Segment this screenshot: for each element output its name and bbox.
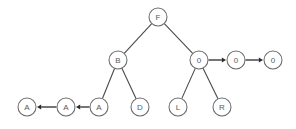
node-f[interactable]: F [149,8,167,26]
node-label: 0 [197,56,202,65]
node-label: L [176,103,181,112]
node-o-3[interactable]: 0 [264,51,282,69]
node-o-2[interactable]: 0 [227,51,245,69]
node-label: B [115,56,120,65]
edge-f-to-o1 [164,24,192,54]
node-label: A [63,103,69,112]
node-label: A [96,103,102,112]
arrow-o2-to-o3 [246,57,264,62]
node-l[interactable]: L [169,98,187,116]
arrow-head-icon [76,104,80,109]
node-a-2[interactable]: A [57,98,75,116]
edge-o1-to-r [203,68,218,98]
edge-b-to-d [122,68,136,98]
node-label: 0 [271,56,276,65]
edge-b-to-a3 [102,69,114,99]
node-o-1[interactable]: 0 [190,51,208,69]
arrow-head-icon [37,104,41,109]
arrow-head-icon [259,57,263,62]
node-d[interactable]: D [131,98,149,116]
node-label: D [137,103,143,112]
node-r[interactable]: R [213,98,231,116]
node-b[interactable]: B [109,51,127,69]
edge-f-to-b [124,24,151,54]
arrow-head-icon [222,57,226,62]
node-label: 0 [234,56,239,65]
arrow-o1-to-o2 [209,57,227,62]
node-label: A [24,103,30,112]
node-label: F [156,13,161,22]
tree-diagram-canvas: FB000AAADLR [0,0,296,129]
tree-diagram: FB000AAADLR [0,0,296,129]
node-a-3[interactable]: A [90,98,108,116]
arrow-a3-to-a2 [76,104,90,109]
node-a-1[interactable]: A [18,98,36,116]
arrow-a2-to-a1 [37,104,57,109]
edge-o1-to-l [182,68,196,98]
edge-layer [37,24,263,110]
node-layer: FB000AAADLR [18,8,282,116]
node-label: R [219,103,225,112]
